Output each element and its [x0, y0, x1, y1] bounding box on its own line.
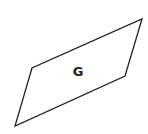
shape-label: G	[73, 64, 84, 79]
diagram-canvas: G	[0, 0, 148, 134]
